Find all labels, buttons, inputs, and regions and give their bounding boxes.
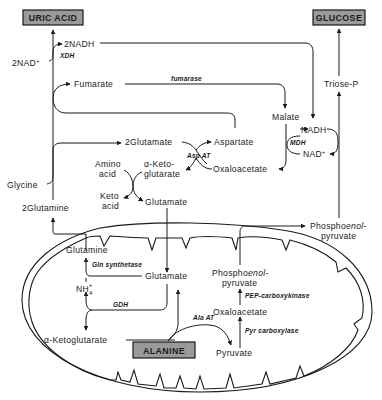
label-triose-p: Triose-P (324, 79, 359, 89)
label-oxaloacetate-mito: Oxaloacetate (213, 307, 267, 317)
label-nh4: NH4+ (76, 282, 93, 296)
enzyme-ala-at: Ala AT (192, 314, 215, 321)
label-glycine: Glycine (7, 180, 38, 190)
enzyme-mdh: MDH (290, 139, 306, 146)
label-2nadh: 2NADH (64, 39, 95, 49)
alanine-box: ALANINE (133, 342, 195, 358)
label-glutamate-mito: Glutamate (145, 271, 187, 281)
label-pep-cytosol-2: pyruvate (321, 231, 356, 241)
enzyme-gdh: GDH (113, 301, 128, 308)
label-amino-acid-1: Amino (95, 159, 121, 169)
label-2glutamate: 2Glutamate (125, 137, 172, 147)
label-nadh: NADH (301, 125, 327, 135)
label-pep-mito-2: pyruvate (222, 278, 257, 288)
inner-membrane-cristae (29, 236, 363, 389)
label-keto-acid-1: Keto (100, 191, 119, 201)
label-glutamate-cytosol: Glutamate (145, 197, 187, 207)
label-malate: Malate (272, 112, 300, 122)
cytosol-arrows (47, 29, 339, 272)
label-pep-mito-1: Phosphoenol- (212, 268, 269, 278)
label-aspartate: Aspartate (214, 137, 253, 147)
enzyme-pep-carboxykinase: PEP-carboxykinase (245, 292, 310, 300)
label-alpha-kg-1: α-Keto- (144, 159, 174, 169)
glucose-box: GLUCOSE (313, 10, 365, 25)
label-alpha-kg-2: glutarate (144, 169, 180, 179)
label-pep-cytosol-1: Phosphoenol- (310, 221, 367, 231)
label-fumarate: Fumarate (74, 79, 113, 89)
label-amino-acid-2: acid (99, 169, 116, 179)
label-pyruvate: Pyruvate (216, 348, 252, 358)
label-oxaloacetate-cytosol: Oxaloacetate (213, 164, 267, 174)
uric-acid-box: URIC ACID (23, 10, 83, 25)
enzyme-gln-synthetase: Gln synthetase (92, 261, 142, 269)
label-glutamine-mito: Glutamine (66, 245, 108, 255)
enzyme-asp-at: Asp AT (186, 152, 211, 160)
glucose-label: GLUCOSE (316, 13, 362, 23)
label-2glutamine: 2Glutamine (22, 203, 69, 213)
enzyme-pyr-carboxylase: Pyr carboxylase (245, 327, 299, 335)
enzyme-fumarase: fumarase (171, 75, 202, 82)
mitochondrion-labels: Glutamine Gln synthetase Glutamate NH4+ … (44, 245, 310, 358)
alanine-label: ALANINE (143, 346, 185, 356)
label-alpha-ketoglutarate: α-Ketoglutarate (44, 335, 107, 345)
metabolic-pathway-diagram: URIC ACID GLUCOSE ALANINE (0, 0, 382, 400)
label-2nad: 2NAD+ (12, 58, 40, 68)
label-keto-acid-2: acid (102, 201, 119, 211)
uric-acid-label: URIC ACID (29, 13, 78, 23)
enzyme-xdh: XDH (59, 52, 75, 59)
label-nad: NAD+ (303, 149, 326, 159)
